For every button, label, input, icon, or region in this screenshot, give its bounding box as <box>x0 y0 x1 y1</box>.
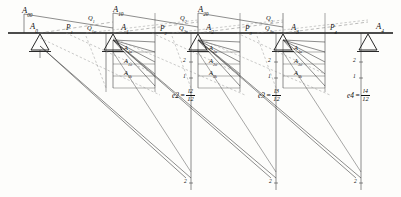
tick-number: 2 <box>183 57 186 63</box>
tick-number: 2 <box>184 178 187 184</box>
label-load-P3: P3 <box>245 25 252 35</box>
label-support-A4: A4 <box>376 22 384 33</box>
tick-number: 2 <box>269 178 272 184</box>
label-A1u: A1u <box>124 45 132 53</box>
label-Q3: Q3 <box>266 15 273 23</box>
label-A3u: A3u <box>294 45 302 53</box>
label-support-A3: A3 <box>291 23 299 34</box>
label-load-P2: P2 <box>160 25 167 35</box>
label-A3k: A3k <box>294 70 302 78</box>
label-A2o: A2o <box>209 58 217 66</box>
stress-fan-3 <box>283 40 325 88</box>
label-A2u: A2u <box>209 45 217 53</box>
equation-e2: e2 = l2 12 <box>172 88 195 102</box>
label-A1k: A1k <box>124 70 132 78</box>
label-A20: A20 <box>198 5 208 16</box>
tick-number: 1 <box>183 73 186 79</box>
tick-number: 2 <box>353 57 356 63</box>
label-load-P4: P4 <box>330 24 337 34</box>
bottom-verticals <box>106 88 361 190</box>
support-A4 <box>357 34 379 52</box>
label-A10: A10 <box>113 5 123 16</box>
label-support-A1: A1 <box>121 23 129 34</box>
label-A2k: A2k <box>209 70 217 78</box>
label-support-A0: A0 <box>30 22 38 33</box>
label-A3o: A3o <box>294 58 302 66</box>
label-support-A2: A2 <box>206 23 214 34</box>
equation-e3: e3 = l3 12 <box>258 88 281 102</box>
tick-number: 1 <box>353 73 356 79</box>
label-Q1u: Q1u <box>87 25 96 33</box>
label-Q1: Q1 <box>88 15 95 23</box>
label-Q2: Q2 <box>180 15 187 23</box>
diagram-vector-layer: .beam{stroke:#111;stroke-width:1.7;} .th… <box>0 0 401 197</box>
label-Q2u: Q2u <box>179 25 188 33</box>
tick-number: 2 <box>268 57 271 63</box>
tick-number: 2 <box>354 178 357 184</box>
label-A1o: A1o <box>124 58 132 66</box>
equation-e4: e4 = l4 12 <box>347 88 370 102</box>
label-load-P1: P1 <box>66 24 73 34</box>
tick-number: 1 <box>268 73 271 79</box>
beam-diagram: .beam{stroke:#111;stroke-width:1.7;} .th… <box>0 0 401 197</box>
label-Q3u: Q3u <box>265 25 274 33</box>
label-A00: A00 <box>22 6 32 17</box>
